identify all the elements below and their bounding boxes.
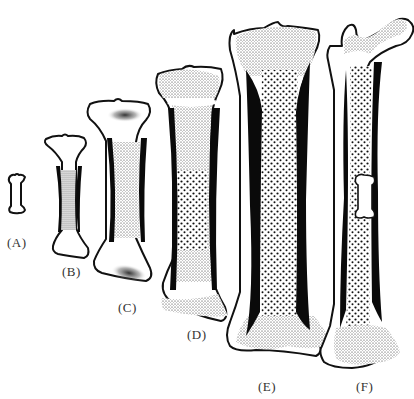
label-c: (C) [118,300,137,316]
bone-f [320,19,413,368]
figure-canvas [0,0,414,399]
bone-b [45,135,89,259]
bone-c [88,99,152,285]
label-e: (E) [258,379,276,395]
label-b: (B) [62,264,81,280]
bone-development-figure: (A) (B) (C) (D) (E) (F) [0,0,414,399]
bone-a [9,174,25,213]
label-d: (D) [187,327,207,343]
label-f: (F) [356,379,373,395]
label-a: (A) [7,235,27,251]
bone-e [227,22,330,356]
bone-d [156,66,228,321]
